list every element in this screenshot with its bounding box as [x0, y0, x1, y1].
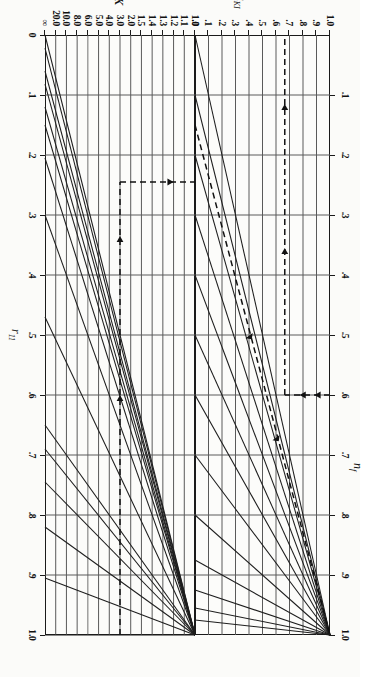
- upper-x-axis-symbol: nf: [351, 463, 365, 471]
- lower-x-tick-label: .3: [27, 212, 37, 219]
- upper-read-arrow-2: [281, 104, 288, 110]
- lower-y-tick-label: ∞: [40, 19, 50, 26]
- lower-y-tick: [140, 30, 141, 35]
- lower-y-tick: [194, 30, 195, 35]
- lower-y-tick-label: 3.0: [115, 15, 125, 26]
- lower-y-axis-symbol: K: [111, 0, 125, 5]
- upper-x-tick-label: .9: [340, 572, 350, 579]
- lower-y-tick-label: 1.3: [158, 15, 168, 26]
- upper-x-tick-label: .1: [340, 92, 350, 99]
- lower-x-tick: [40, 395, 45, 396]
- lower-x-tick: [40, 455, 45, 456]
- lower-y-tick: [183, 30, 184, 35]
- lower-y-tick: [108, 30, 109, 35]
- upper-x-tick: [330, 575, 335, 576]
- upper-y-axis-title: RKI: [231, 0, 247, 9]
- upper-x-tick: [330, 635, 335, 636]
- upper-y-tick: [235, 30, 236, 35]
- lower-x-tick: [40, 35, 45, 36]
- upper-y-tick-label: .2: [217, 19, 227, 26]
- lower-x-tick-label: .4: [27, 272, 37, 279]
- upper-y-tick: [275, 30, 276, 35]
- upper-y-tick-label: 1.0: [325, 15, 335, 26]
- upper-y-axis-symbol: RKI: [234, 0, 248, 9]
- upper-x-tick-label: .6: [340, 392, 350, 399]
- upper-y-tick-label: .9: [312, 19, 322, 26]
- upper-y-tick-label: .5: [258, 19, 268, 26]
- lower-x-tick-label: .7: [27, 452, 37, 459]
- lower-y-tick: [44, 30, 45, 35]
- lower-x-tick-label: .9: [27, 572, 37, 579]
- lower-x-tick: [40, 335, 45, 336]
- lower-y-tick-label: 5.0: [94, 15, 104, 26]
- lower-y-tick-label: 2.0: [126, 15, 136, 26]
- lower-read-arrow-1: [117, 395, 124, 401]
- lower-x-tick-label: .1: [27, 92, 37, 99]
- lower-y-tick: [76, 30, 77, 35]
- upper-y-tick: [248, 30, 249, 35]
- upper-y-tick-label: .4: [244, 19, 254, 26]
- upper-x-tick: [330, 395, 335, 396]
- upper-x-tick-label: .3: [340, 212, 350, 219]
- lower-x-axis-symbol: r11: [9, 329, 23, 341]
- upper-x-tick: [330, 335, 335, 336]
- lower-y-tick-label: 1.4: [147, 15, 157, 26]
- lower-y-tick-label: 20.0: [51, 10, 61, 26]
- upper-x-axis-title: nf: [349, 463, 365, 471]
- lower-x-tick: [40, 515, 45, 516]
- lower-y-tick: [55, 30, 56, 35]
- lower-plot-lines: [45, 35, 195, 635]
- upper-y-tick: [302, 30, 303, 35]
- lower-y-tick: [162, 30, 163, 35]
- upper-x-tick: [330, 155, 335, 156]
- upper-y-tick-label: .1: [204, 19, 214, 26]
- lower-x-tick-label: .6: [27, 392, 37, 399]
- upper-x-tick-label: .8: [340, 512, 350, 519]
- upper-plot-lines: [195, 35, 330, 635]
- lower-x-tick-label: .8: [27, 512, 37, 519]
- upper-x-tick-label: 1.0: [340, 629, 350, 640]
- lower-y-tick-label: 1.5: [136, 15, 146, 26]
- lower-y-tick-label: 1.1: [179, 15, 189, 26]
- lower-x-tick: [40, 155, 45, 156]
- upper-y-tick: [262, 30, 263, 35]
- lower-y-axis-title: K: [110, 0, 125, 5]
- lower-x-tick-label: .2: [27, 152, 37, 159]
- lower-y-tick-label: 1.2: [169, 15, 179, 26]
- upper-x-tick: [330, 95, 335, 96]
- lower-x-tick: [40, 275, 45, 276]
- upper-y-tick-label: .7: [285, 19, 295, 26]
- upper-x-tick: [330, 515, 335, 516]
- lower-y-tick: [173, 30, 174, 35]
- lower-x-tick-label: 0: [27, 33, 37, 38]
- lower-x-tick: [40, 575, 45, 576]
- upper-x-tick-label: .5: [340, 332, 350, 339]
- lower-read-arrow-2: [117, 236, 124, 242]
- upper-x-tick: [330, 455, 335, 456]
- lower-y-tick: [87, 30, 88, 35]
- lower-x-tick: [40, 215, 45, 216]
- lower-y-tick-label: 4.0: [104, 15, 114, 26]
- lower-x-tick-label: .5: [27, 332, 37, 339]
- lower-panel: [45, 35, 195, 635]
- upper-y-tick: [329, 30, 330, 35]
- lower-x-tick-label: 1.0: [27, 629, 37, 640]
- lower-y-tick-label: 10.0: [61, 10, 71, 26]
- upper-x-tick-label: .7: [340, 452, 350, 459]
- upper-y-tick-label: .8: [298, 19, 308, 26]
- upper-y-tick-label: .3: [231, 19, 241, 26]
- upper-panel: [195, 35, 330, 635]
- lower-y-tick-label: 8.0: [72, 15, 82, 26]
- lower-y-tick: [65, 30, 66, 35]
- upper-y-tick: [208, 30, 209, 35]
- lower-x-tick: [40, 635, 45, 636]
- lower-rise-arrow: [167, 179, 173, 186]
- upper-read-arrow-1: [281, 248, 288, 254]
- lower-x-tick: [40, 95, 45, 96]
- lower-y-tick: [98, 30, 99, 35]
- lower-y-tick: [119, 30, 120, 35]
- upper-y-tick: [289, 30, 290, 35]
- upper-x-tick: [330, 215, 335, 216]
- upper-x-tick-label: .4: [340, 272, 350, 279]
